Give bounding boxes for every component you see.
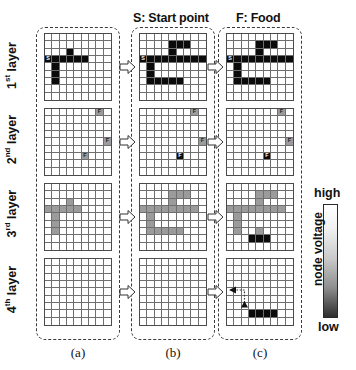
- grid-cell: [271, 49, 278, 56]
- grid-cell: [278, 184, 285, 191]
- grid-cell: [52, 296, 59, 303]
- grid-cell: [140, 41, 147, 48]
- grid-cell: [89, 199, 96, 206]
- grid-cell: [242, 184, 249, 191]
- grid-cell: [52, 228, 59, 235]
- grid-cell: [264, 318, 271, 325]
- grid-cell: [82, 228, 89, 235]
- grid-cell: [89, 310, 96, 317]
- grid-cell: [60, 71, 67, 78]
- grid-cell: [234, 266, 241, 273]
- grid-cell: [227, 259, 234, 266]
- grid-cell: [184, 235, 191, 242]
- grid-cell: [155, 206, 162, 213]
- grid-cell: [60, 228, 67, 235]
- grid-cell: [82, 310, 89, 317]
- grid-cell: [104, 34, 111, 41]
- grid-cell: [191, 228, 198, 235]
- grid-cell: [242, 274, 249, 281]
- grid-cell: [82, 303, 89, 310]
- grid-cell: [74, 259, 81, 266]
- grid-cell: [82, 281, 89, 288]
- grid-cell: [104, 259, 111, 266]
- grid-cell: [52, 191, 59, 198]
- grid-cell: [67, 213, 74, 220]
- grid-cell: [242, 213, 249, 220]
- grid-cell: [82, 71, 89, 78]
- grid-cell: [242, 303, 249, 310]
- grid-cell: [278, 281, 285, 288]
- grid-cell: [162, 146, 169, 153]
- grid-cell: [184, 85, 191, 92]
- grid-cell: [74, 85, 81, 92]
- grid-cell: [82, 243, 89, 250]
- grid-cell: [256, 191, 263, 198]
- grid-cell: [286, 266, 293, 273]
- grid-cell: [256, 168, 263, 175]
- grid-cell: [227, 235, 234, 242]
- grid-cell: [155, 199, 162, 206]
- grid-cell: [177, 160, 184, 167]
- row-label-layer-4-text: layer: [5, 266, 19, 299]
- grid-cell: [67, 199, 74, 206]
- grid-cell: [82, 259, 89, 266]
- legend-gradient-bar: [323, 204, 338, 318]
- grid-cell: [199, 199, 206, 206]
- grid-cell: [147, 116, 154, 123]
- grid-cell: [234, 191, 241, 198]
- grid-column-b-layer-1: S: [139, 33, 207, 101]
- grid-cell: [169, 56, 176, 63]
- grid-cell: [155, 146, 162, 153]
- grid-cell: [155, 131, 162, 138]
- grid-cell: [234, 235, 241, 242]
- grid-cell: [177, 296, 184, 303]
- grid-cell: [82, 274, 89, 281]
- grid-cell: [184, 259, 191, 266]
- grid-cell: [67, 288, 74, 295]
- grid-cell: [52, 266, 59, 273]
- row-label-layer-4: 4th layer: [3, 253, 18, 327]
- grid-cell: [104, 78, 111, 85]
- grid-cell: [96, 56, 103, 63]
- grid-cell: [89, 243, 96, 250]
- grid-cell: [177, 191, 184, 198]
- grid-cell: [140, 191, 147, 198]
- grid-cell: [45, 228, 52, 235]
- grid-cell: [60, 221, 67, 228]
- row-label-layer-2-ordinal: 2: [5, 157, 19, 164]
- grid-cell: [67, 34, 74, 41]
- grid-cell: [242, 63, 249, 70]
- grid-cell: [271, 63, 278, 70]
- grid-cell: [234, 184, 241, 191]
- grid-cell: [234, 310, 241, 317]
- grid-cell: [169, 78, 176, 85]
- grid-cell: [104, 221, 111, 228]
- grid-cell: [199, 243, 206, 250]
- grid-cell: [162, 310, 169, 317]
- bottom-caption-c: (c): [218, 345, 302, 361]
- grid-cell: [60, 41, 67, 48]
- grid-cell: [169, 206, 176, 213]
- grid-cell: [60, 206, 67, 213]
- grid-cell: [162, 281, 169, 288]
- grid-cell: [155, 124, 162, 131]
- grid-cell: [271, 78, 278, 85]
- grid-cell: [234, 109, 241, 116]
- grid-cell: [45, 34, 52, 41]
- grid-cell: [104, 303, 111, 310]
- grid-cell: [140, 160, 147, 167]
- grid-cell: [184, 213, 191, 220]
- grid-cell: [286, 34, 293, 41]
- grid-cell: [191, 78, 198, 85]
- grid-cell: [52, 56, 59, 63]
- grid-cell: [227, 138, 234, 145]
- grid-cell: [227, 131, 234, 138]
- grid-cell: [155, 235, 162, 242]
- grid-cell: [45, 168, 52, 175]
- grid-cell: [155, 259, 162, 266]
- transition-arrow-a-to-b-layer-2: [119, 134, 136, 150]
- grid-cell: [162, 221, 169, 228]
- grid-cell: [169, 146, 176, 153]
- grid-cell: [155, 160, 162, 167]
- grid-cell: [169, 228, 176, 235]
